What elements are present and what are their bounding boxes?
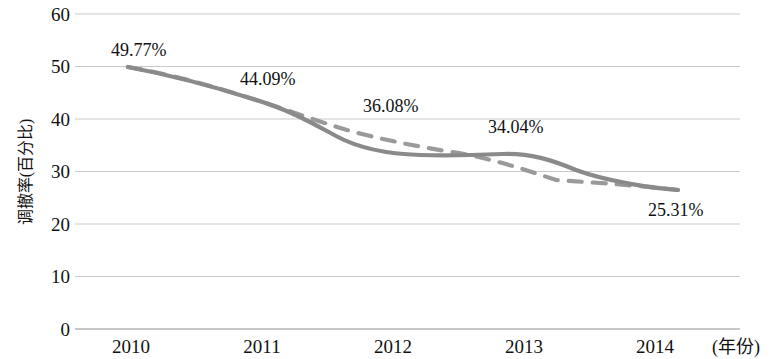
y-tick-60: 60: [26, 5, 70, 24]
data-label-2012: 36.08%: [363, 97, 419, 115]
data-label-2014: 25.31%: [648, 201, 704, 219]
x-tick-2012: 2012: [358, 337, 428, 356]
data-label-2011: 44.09%: [240, 70, 296, 88]
y-tick-10: 10: [26, 267, 70, 286]
x-tick-2011: 2011: [227, 337, 297, 356]
y-tick-40: 40: [26, 110, 70, 129]
x-tick-2013: 2013: [489, 337, 559, 356]
y-tick-30: 30: [26, 162, 70, 181]
x-tick-2014: 2014: [620, 337, 690, 356]
gridlines: [75, 14, 740, 329]
data-label-2010: 49.77%: [111, 41, 167, 59]
x-axis-unit-label: (年份): [712, 338, 760, 356]
y-tick-50: 50: [26, 57, 70, 76]
x-tick-2010: 2010: [96, 337, 166, 356]
y-tick-0: 0: [26, 320, 70, 339]
y-tick-20: 20: [26, 215, 70, 234]
data-label-2013: 34.04%: [488, 118, 544, 136]
line-chart: 调撤率(百分比) 60 50 40 30 20 10 0 2010 2011 2…: [0, 0, 780, 359]
